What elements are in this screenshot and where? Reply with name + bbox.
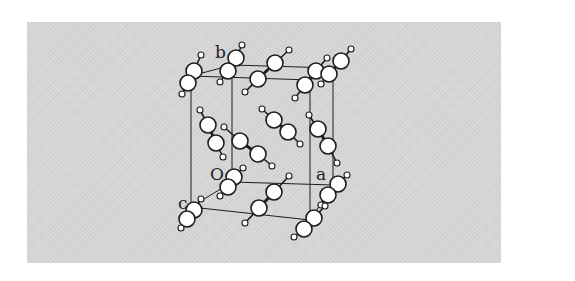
large-atom bbox=[232, 133, 248, 149]
small-atom bbox=[179, 91, 185, 97]
small-atom bbox=[221, 124, 227, 130]
large-atom bbox=[200, 117, 216, 133]
axis-label-b: b bbox=[215, 42, 226, 62]
small-atom bbox=[240, 165, 246, 171]
small-atom bbox=[344, 172, 350, 178]
axis-label-origin: O bbox=[210, 164, 224, 184]
molecule bbox=[179, 52, 204, 97]
small-atom bbox=[242, 220, 248, 226]
large-atom bbox=[267, 55, 283, 71]
small-atom bbox=[198, 52, 204, 58]
large-atom bbox=[220, 63, 236, 79]
small-atom bbox=[217, 193, 223, 199]
molecule bbox=[306, 112, 340, 166]
large-atom bbox=[320, 187, 336, 203]
large-atom bbox=[321, 66, 337, 82]
small-atom bbox=[291, 234, 297, 240]
large-atom bbox=[266, 184, 282, 200]
small-atom bbox=[286, 47, 292, 53]
large-atom bbox=[297, 77, 313, 93]
large-atom bbox=[333, 53, 349, 69]
small-atom bbox=[198, 196, 204, 202]
large-atom bbox=[250, 146, 266, 162]
molecule bbox=[259, 106, 303, 147]
large-atom bbox=[310, 121, 326, 137]
large-atom bbox=[296, 221, 312, 237]
small-atom bbox=[306, 112, 312, 118]
small-atom bbox=[292, 95, 298, 101]
large-atom bbox=[250, 71, 266, 87]
small-atom bbox=[322, 203, 328, 209]
small-atom bbox=[259, 106, 265, 112]
molecule bbox=[197, 107, 226, 160]
small-atom bbox=[348, 46, 354, 52]
large-atom bbox=[180, 75, 196, 91]
small-atom bbox=[197, 107, 203, 113]
molecule bbox=[221, 124, 275, 169]
small-atom bbox=[239, 42, 245, 48]
crystal-unit-cell-diagram: b O a c bbox=[0, 0, 575, 281]
small-atom bbox=[220, 154, 226, 160]
axis-label-a: a bbox=[316, 164, 326, 184]
small-atom bbox=[286, 173, 292, 179]
small-atom bbox=[334, 160, 340, 166]
small-atom bbox=[269, 163, 275, 169]
small-atom bbox=[242, 89, 248, 95]
molecule bbox=[242, 173, 292, 226]
large-atom bbox=[251, 200, 267, 216]
molecule bbox=[242, 47, 292, 95]
large-atom bbox=[320, 138, 336, 154]
small-atom bbox=[318, 81, 324, 87]
large-atom bbox=[266, 112, 282, 128]
small-atom bbox=[297, 141, 303, 147]
molecules bbox=[178, 42, 354, 240]
small-atom bbox=[217, 79, 223, 85]
small-atom bbox=[324, 55, 330, 61]
large-atom bbox=[208, 135, 224, 151]
large-atom bbox=[280, 124, 296, 140]
small-atom bbox=[178, 225, 184, 231]
axis-label-c: c bbox=[178, 193, 188, 213]
